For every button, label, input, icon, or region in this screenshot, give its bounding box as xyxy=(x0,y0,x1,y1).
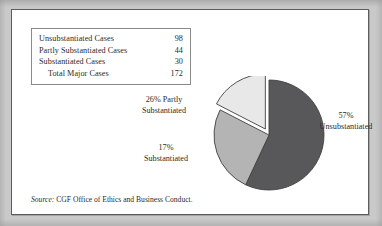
case-summary-table: Unsubstantiated Cases 98 Partly Substant… xyxy=(31,28,191,85)
table-row-label: Substantiated Cases xyxy=(39,56,105,68)
pie-label-substantiated-line2: Substantiated xyxy=(124,153,208,164)
table-row-value: 30 xyxy=(163,56,183,68)
table-row-label: Unsubstantiated Cases xyxy=(39,33,114,45)
pie-chart-svg xyxy=(208,76,332,194)
figure-panel: Unsubstantiated Cases 98 Partly Substant… xyxy=(11,9,369,215)
pie-label-partly-line1: 26% Partly xyxy=(122,94,206,105)
pie-label-unsubstantiated: 57% Unsubstantiated xyxy=(303,110,382,132)
pie-label-unsubstantiated-line2: Unsubstantiated xyxy=(303,121,382,132)
pie-label-substantiated: 17% Substantiated xyxy=(124,142,208,164)
table-row: Partly Substantiated Cases 44 xyxy=(39,45,183,57)
pie-label-unsubstantiated-line1: 57% xyxy=(303,110,382,121)
pie-chart xyxy=(208,76,332,194)
table-total-value: 172 xyxy=(163,68,183,80)
table-row-label: Partly Substantiated Cases xyxy=(39,45,127,57)
source-note-lead: Source: xyxy=(31,195,54,204)
table-row: Substantiated Cases 30 xyxy=(39,56,183,68)
figure-root: Unsubstantiated Cases 98 Partly Substant… xyxy=(0,0,382,226)
pie-label-partly-line2: Substantiated xyxy=(122,105,206,116)
table-total-label: Total Major Cases xyxy=(39,68,109,80)
pie-label-substantiated-line1: 17% xyxy=(124,142,208,153)
source-note-text: CGF Office of Ethics and Business Conduc… xyxy=(54,195,192,204)
pie-label-partly-substantiated: 26% Partly Substantiated xyxy=(122,94,206,116)
table-row-total: Total Major Cases 172 xyxy=(39,68,183,80)
table-row-value: 44 xyxy=(163,45,183,57)
source-note: Source: CGF Office of Ethics and Busines… xyxy=(31,195,193,205)
table-row-value: 98 xyxy=(163,33,183,45)
table-row: Unsubstantiated Cases 98 xyxy=(39,33,183,45)
pie-slice-group xyxy=(214,76,324,190)
